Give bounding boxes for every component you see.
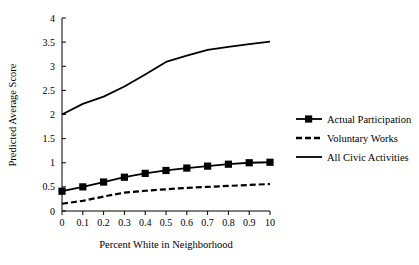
series-marker — [246, 159, 253, 166]
series-marker — [142, 170, 149, 177]
x-tick-label: 10 — [265, 217, 275, 228]
series-marker — [100, 178, 107, 185]
chart-legend: Actual ParticipationVoluntary WorksAll C… — [296, 114, 412, 163]
y-tick-label: 3 — [50, 61, 55, 72]
x-tick-label: 0.5 — [160, 217, 173, 228]
series-marker — [225, 161, 232, 168]
axis-tickmarks — [62, 18, 270, 215]
x-tick-label: 0.1 — [77, 217, 90, 228]
chart-figure: 00.511.522.533.54 00.10.20.30.40.50.60.7… — [0, 0, 419, 265]
legend-item-all-civic-activities: All Civic Activities — [296, 152, 409, 163]
y-tick-label: 4 — [50, 13, 55, 24]
series-marker — [183, 164, 190, 171]
series-marker — [58, 188, 65, 195]
series-marker — [79, 183, 86, 190]
series-line-voluntary-works — [62, 184, 270, 204]
series-marker — [266, 159, 273, 166]
data-series-layer — [58, 42, 273, 204]
x-tick-label: 0.9 — [243, 217, 256, 228]
line-chart-canvas: 00.511.522.533.54 00.10.20.30.40.50.60.7… — [0, 0, 419, 265]
series-marker — [162, 167, 169, 174]
x-tick-label: 0.7 — [201, 217, 214, 228]
x-tick-label: 0 — [60, 217, 65, 228]
y-tick-label: 0 — [50, 206, 55, 217]
x-tick-label: 0.3 — [118, 217, 131, 228]
legend-label: Voluntary Works — [327, 133, 398, 144]
y-tick-label: 2.5 — [43, 85, 56, 96]
x-tick-label: 0.6 — [181, 217, 194, 228]
y-axis-title: Predicted Average Score — [7, 63, 18, 166]
x-tick-label: 0.8 — [222, 217, 235, 228]
y-tick-label: 2 — [50, 109, 55, 120]
x-tick-label: 0.2 — [97, 217, 110, 228]
legend-item-voluntary-works: Voluntary Works — [296, 133, 398, 144]
series-marker — [204, 163, 211, 170]
x-axis-title: Percent White in Neighborhood — [99, 239, 233, 250]
series-marker — [121, 174, 128, 181]
y-tick-label: 1 — [50, 157, 55, 168]
legend-label: All Civic Activities — [327, 152, 409, 163]
y-tick-label: 1.5 — [43, 133, 56, 144]
series-line-actual-participation — [62, 162, 270, 191]
legend-item-actual-participation: Actual Participation — [296, 114, 412, 125]
y-axis-tick-labels: 00.511.522.533.54 — [43, 13, 56, 217]
x-axis-tick-labels: 00.10.20.30.40.50.60.70.80.910 — [60, 217, 276, 228]
series-line-all-civic-activities — [62, 42, 270, 115]
legend-label: Actual Participation — [327, 114, 412, 125]
y-tick-label: 0.5 — [43, 181, 56, 192]
x-tick-label: 0.4 — [139, 217, 152, 228]
y-tick-label: 3.5 — [43, 37, 56, 48]
